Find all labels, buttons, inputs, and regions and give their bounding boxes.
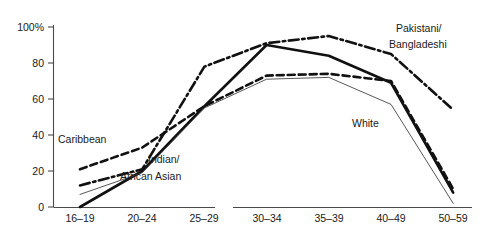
series-line-indian-african-asian <box>80 45 453 207</box>
y-tick-label-0: 0 <box>38 201 44 213</box>
y-tick-label-20: 20 <box>32 165 44 177</box>
x-tick-label-50-59: 50–59 <box>438 212 467 224</box>
y-axis-ticks <box>48 27 54 207</box>
y-tick-label-100: 100% <box>17 21 44 33</box>
x-tick-label-20-24: 20–24 <box>127 212 156 224</box>
series-annotation-bangladeshi: Bangladeshi <box>389 38 447 50</box>
x-tick-label-25-29: 25–29 <box>189 212 218 224</box>
x-axis: 16–19 20–24 25–29 30–34 35–39 40–49 50–5… <box>54 208 473 225</box>
series-annotation-indian: Indian/ <box>148 153 180 165</box>
series-line-pakistani-bangladeshi <box>80 36 453 185</box>
x-tick-label-40-49: 40–49 <box>376 212 405 224</box>
annotation-layer: CaribbeanIndian/African AsianPakistani/B… <box>58 22 447 182</box>
chart-canvas: 100% 80 60 40 20 0 16–19 20–24 25–29 30–… <box>0 0 490 238</box>
series-annotation-white: White <box>352 117 379 129</box>
line-chart-figure: 100% 80 60 40 20 0 16–19 20–24 25–29 30–… <box>0 0 490 238</box>
x-tick-label-35-39: 35–39 <box>314 212 343 224</box>
series-annotation-caribbean: Caribbean <box>58 133 107 145</box>
series-annotation-african-asian: African Asian <box>120 170 181 182</box>
y-tick-label-80: 80 <box>32 57 44 69</box>
x-tick-label-16-19: 16–19 <box>65 212 94 224</box>
x-tick-label-30-34: 30–34 <box>252 212 281 224</box>
y-axis: 100% 80 60 40 20 0 <box>17 21 53 213</box>
y-tick-label-60: 60 <box>32 93 44 105</box>
y-tick-label-40: 40 <box>32 129 44 141</box>
series-annotation-pakistani: Pakistani/ <box>396 22 442 34</box>
